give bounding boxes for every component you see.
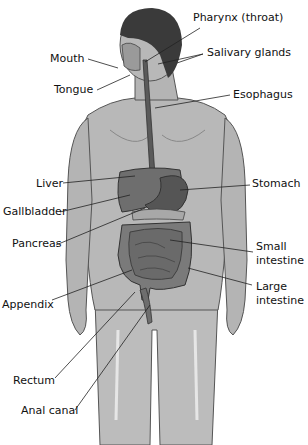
label-gallbladder: Gallbladder [3, 205, 66, 218]
label-esophagus: Esophagus [233, 88, 293, 101]
label-appendix: Appendix [2, 298, 54, 311]
label-small-intestine-line2: intestine [256, 254, 304, 267]
label-anal-canal: Anal canal [21, 404, 78, 417]
label-large-intestine-line2: intestine [256, 294, 304, 307]
label-pharynx: Pharynx (throat) [193, 11, 283, 24]
label-tongue: Tongue [54, 83, 93, 96]
label-salivary-glands: Salivary glands [207, 46, 291, 59]
label-liver: Liver [36, 177, 63, 190]
label-small-intestine-line1: Small [256, 240, 287, 253]
pancreas-organ [132, 209, 185, 220]
label-rectum: Rectum [13, 374, 55, 387]
label-pancreas: Pancreas [12, 237, 61, 250]
label-stomach: Stomach [252, 177, 301, 190]
label-mouth: Mouth [50, 52, 84, 65]
small-intestine-organ [129, 229, 183, 280]
label-large-intestine-line1: Large [256, 280, 287, 293]
